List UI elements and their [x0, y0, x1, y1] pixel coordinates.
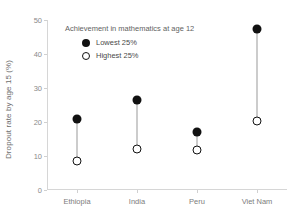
chart-figure: Dropout rate by age 15 (%) 01020304050 E…	[0, 0, 297, 218]
y-tick-label: 40	[34, 50, 42, 59]
data-point-highest	[133, 145, 142, 154]
data-point-lowest	[133, 95, 142, 104]
y-tick-mark	[44, 156, 47, 157]
y-tick-mark	[44, 88, 47, 89]
y-tick-mark	[44, 190, 47, 191]
range-connector	[257, 29, 258, 121]
legend-label-lowest: Lowest 25%	[96, 38, 137, 47]
x-tick-mark	[197, 190, 198, 193]
y-tick-label: 0	[38, 186, 42, 195]
chart-legend: Achievement in mathematics at age 12 Low…	[65, 24, 215, 60]
x-tick-mark	[77, 190, 78, 193]
x-tick-label: Viet Nam	[242, 197, 273, 206]
legend-label-highest: Highest 25%	[96, 51, 139, 60]
x-axis-spine	[47, 189, 287, 190]
x-tick-mark	[137, 190, 138, 193]
x-tick-label: Peru	[189, 197, 205, 206]
y-axis-spine	[47, 20, 48, 190]
range-connector	[137, 100, 138, 149]
legend-title: Achievement in mathematics at age 12	[65, 24, 215, 33]
range-connector	[77, 119, 78, 162]
y-tick-mark	[44, 122, 47, 123]
data-point-highest	[73, 157, 82, 166]
y-tick-label: 20	[34, 118, 42, 127]
x-tick-label: India	[129, 197, 145, 206]
y-tick-mark	[44, 20, 47, 21]
x-tick-mark	[257, 190, 258, 193]
x-tick-label: Ethiopia	[63, 197, 90, 206]
data-point-lowest	[73, 114, 82, 123]
y-tick-label: 50	[34, 16, 42, 25]
open-circle-icon	[82, 52, 90, 60]
y-axis-title-text: Dropout rate by age 15 (%)	[5, 59, 14, 158]
filled-circle-icon	[82, 39, 90, 47]
legend-item-lowest: Lowest 25%	[82, 38, 215, 47]
y-tick-mark	[44, 54, 47, 55]
y-tick-label: 10	[34, 152, 42, 161]
y-axis-title: Dropout rate by age 15 (%)	[2, 0, 16, 218]
data-point-lowest	[193, 128, 202, 137]
y-tick-label: 30	[34, 84, 42, 93]
data-point-highest	[253, 116, 262, 125]
plot-area: 01020304050 EthiopiaIndiaPeruViet Nam Ac…	[47, 20, 287, 190]
data-point-highest	[193, 145, 202, 154]
data-point-lowest	[253, 24, 262, 33]
legend-item-highest: Highest 25%	[82, 51, 215, 60]
